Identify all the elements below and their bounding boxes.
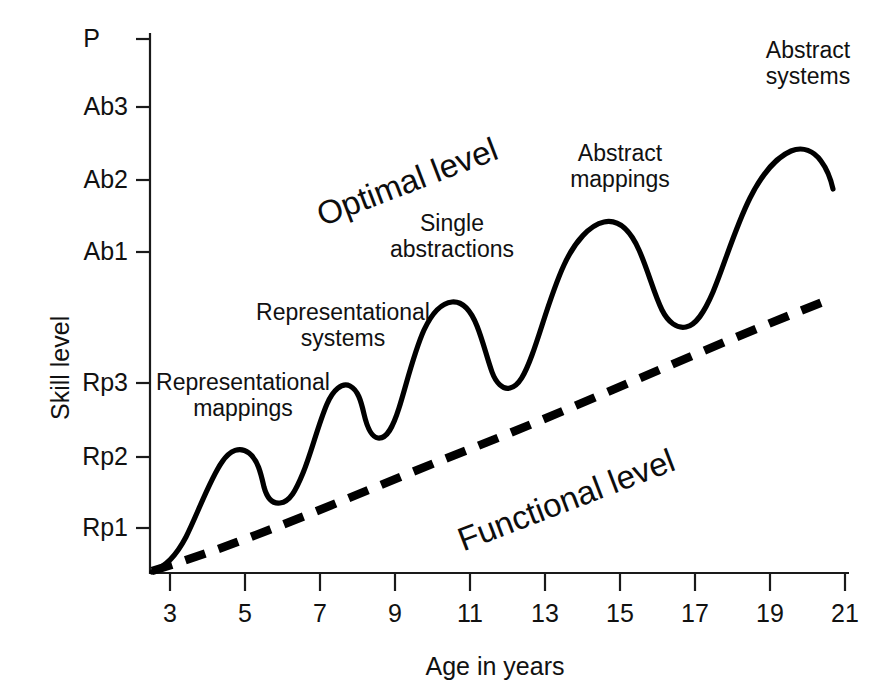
x-tick-label-7: 7 (313, 601, 327, 626)
y-tick-label-Rp1: Rp1 (82, 515, 128, 540)
annotation-line-2: systems (256, 326, 430, 352)
annotation-abstract-mappings: Abstract mappings (570, 141, 670, 193)
annotation-line-1: Representational (256, 300, 430, 326)
annotation-line-1: Representational (156, 370, 330, 396)
annotation-abstract-systems: Abstract systems (766, 38, 850, 90)
x-tick-label-5: 5 (238, 601, 252, 626)
y-axis-ticks (136, 39, 150, 528)
x-axis-title: Age in years (426, 652, 565, 681)
x-tick-label-21: 21 (831, 601, 859, 626)
annotation-representational-systems: Representational systems (256, 300, 430, 352)
x-tick-label-15: 15 (606, 601, 634, 626)
y-tick-label-Ab3: Ab3 (84, 94, 128, 119)
annotation-single-abstractions: Single abstractions (390, 211, 514, 263)
y-axis-title: Skill level (46, 316, 75, 420)
x-tick-label-19: 19 (756, 601, 784, 626)
skill-development-chart: P Ab3 Ab2 Ab1 Rp3 Rp2 Rp1 3 5 7 9 11 13 … (0, 0, 881, 699)
annotation-line-2: mappings (570, 167, 670, 193)
annotation-line-1: Single (390, 211, 514, 237)
x-tick-label-9: 9 (388, 601, 402, 626)
annotation-line-2: abstractions (390, 237, 514, 263)
annotation-line-1: Abstract (766, 38, 850, 64)
y-tick-label-Rp3: Rp3 (82, 370, 128, 395)
annotation-line-2: mappings (156, 396, 330, 422)
annotation-line-2: systems (766, 64, 850, 90)
x-tick-label-13: 13 (531, 601, 559, 626)
x-tick-label-3: 3 (163, 601, 177, 626)
annotation-representational-mappings: Representational mappings (156, 370, 330, 422)
annotation-line-1: Abstract (570, 141, 670, 167)
x-axis-ticks (170, 573, 845, 591)
y-tick-label-Ab2: Ab2 (84, 167, 128, 192)
y-tick-label-Ab1: Ab1 (84, 239, 128, 264)
x-tick-label-17: 17 (681, 601, 709, 626)
y-tick-label-P: P (83, 26, 100, 51)
x-tick-label-11: 11 (457, 601, 483, 626)
chart-plot-area (0, 0, 881, 699)
y-tick-label-Rp2: Rp2 (82, 444, 128, 469)
